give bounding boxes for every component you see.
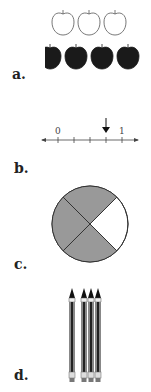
filled-apple-icon — [91, 44, 113, 69]
item-label-c: c. — [14, 256, 27, 272]
outline-apple-icon — [52, 10, 74, 35]
number-line-figure: 0 1 — [38, 112, 142, 148]
filled-apple-icon — [45, 44, 61, 69]
pencil-icon — [69, 288, 75, 382]
filled-apple-icon — [65, 44, 87, 69]
tick-label-1: 1 — [119, 126, 125, 136]
item-label-d: d. — [14, 367, 29, 383]
outline-apple-icon — [104, 10, 126, 35]
item-label-a: a. — [12, 66, 26, 82]
down-arrow-icon — [102, 118, 110, 133]
fraction-circle-figure — [50, 184, 130, 264]
pencils-figure — [66, 286, 110, 386]
pencil-icon — [81, 288, 87, 382]
outline-apple-icon — [78, 10, 100, 35]
filled-apple-icon — [117, 44, 139, 69]
item-label-b: b. — [14, 160, 29, 176]
tick-label-0: 0 — [55, 126, 61, 136]
pencil-icon — [88, 288, 94, 382]
pencil-icon — [95, 288, 101, 382]
apples-figure — [45, 8, 145, 70]
